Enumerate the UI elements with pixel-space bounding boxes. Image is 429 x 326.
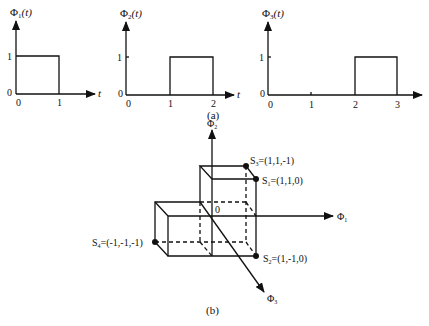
label-origin: 0	[215, 204, 220, 215]
pulse-phi2	[170, 57, 213, 95]
plot-phi1-xtick-1: 1	[57, 97, 62, 108]
pulse-phi1	[16, 56, 59, 94]
figure-canvas: Φ1(t) 1 0 0 1 t Φ2(t) 1 0 0 1 2 t Φ3(t) …	[0, 0, 429, 326]
point-s2	[253, 253, 259, 259]
plot-phi2	[126, 22, 234, 95]
point-s4	[152, 239, 158, 245]
caption-b: (b)	[206, 304, 219, 317]
plot-phi1-xlabel: t	[98, 87, 102, 99]
plot-phi2-xlabel: t	[237, 88, 241, 100]
label-s1: S1=(1,1,0)	[262, 175, 303, 187]
plot-phi2-xtick-0: 0	[126, 98, 131, 109]
plot-phi2-ylabel: Φ2(t)	[120, 7, 142, 21]
plot-phi1	[16, 21, 95, 94]
signal-space	[155, 130, 333, 292]
point-s1	[253, 176, 259, 182]
label-phi1: Φ1	[337, 211, 347, 223]
plot-phi3-xtick-2: 2	[353, 99, 358, 110]
label-phi3: Φ3	[267, 293, 277, 305]
plot-phi3-xtick-0: 0	[268, 99, 273, 110]
label-s3: S3=(1,1,-1)	[250, 155, 294, 167]
plot-phi3-ytick-0: 0	[260, 88, 265, 99]
label-s4: S4=(-1,-1,-1)	[92, 237, 143, 249]
plot-phi3	[268, 22, 422, 95]
plot-phi3-xtick-1: 1	[309, 99, 314, 110]
plot-phi3-xtick-3: 3	[395, 99, 400, 110]
plot-phi1-ytick-0: 0	[7, 87, 12, 98]
plot-phi3-ylabel: Φ3(t)	[262, 7, 284, 21]
plot-phi3-ytick-1: 1	[259, 52, 264, 63]
label-s2: S2=(1,-1,0)	[263, 253, 307, 265]
plot-phi2-xtick-1: 1	[168, 98, 173, 109]
point-s3	[243, 163, 249, 169]
plot-phi2-xtick-2: 2	[211, 98, 216, 109]
plot-phi2-ytick-1: 1	[117, 52, 122, 63]
pulse-phi3	[355, 57, 397, 95]
plot-phi1-ytick-1: 1	[7, 51, 12, 62]
plot-phi2-ytick-0: 0	[118, 88, 123, 99]
plot-phi1-xtick-0: 0	[16, 97, 21, 108]
plot-phi1-ylabel: Φ1(t)	[10, 6, 32, 20]
